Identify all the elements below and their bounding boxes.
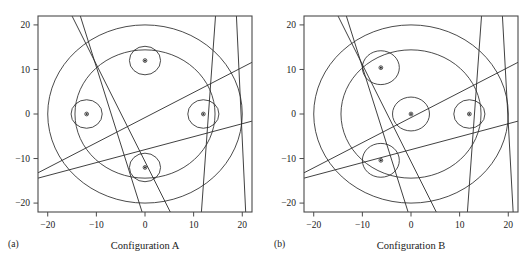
cut-line-1 [80, 16, 142, 212]
x-tick-label-1: −10 [355, 220, 370, 230]
x-tick-label-4: 20 [238, 220, 248, 230]
x-tick-label-2: 0 [409, 220, 414, 230]
cut-line-4 [38, 62, 252, 172]
y-tick-label-4: 20 [287, 20, 297, 30]
plot-frame [38, 16, 252, 212]
y-tick-label-4: 20 [21, 20, 31, 30]
x-tick-label-0: −20 [40, 220, 55, 230]
cut-line-1 [346, 16, 408, 212]
plot-area [38, 16, 252, 212]
y-tick-label-3: 10 [21, 65, 31, 75]
plot-area [304, 16, 518, 212]
y-tick-label-0: −20 [281, 198, 296, 208]
center-point-0 [380, 67, 382, 69]
plot-svg-b: −20−1001020−20−1001020 (b)Configuration … [266, 0, 532, 265]
cut-line-5 [304, 121, 518, 178]
center-point-2 [469, 113, 471, 115]
y-tick-label-3: 10 [287, 65, 297, 75]
y-tick-label-1: −10 [281, 154, 296, 164]
plot-svg-a: −20−1001020−20−1001020 (a)Configuration … [0, 0, 266, 265]
center-point-1 [410, 113, 412, 115]
center-point-3 [380, 159, 382, 161]
x-tick-label-3: 10 [455, 220, 465, 230]
x-tick-label-2: 0 [143, 220, 148, 230]
cut-line-3 [236, 16, 245, 212]
y-tick-label-2: 0 [291, 109, 296, 119]
center-point-1 [144, 60, 146, 62]
panel-configuration-b: −20−1001020−20−1001020 (b)Configuration … [266, 0, 532, 265]
y-tick-label-2: 0 [25, 109, 30, 119]
center-point-2 [203, 113, 205, 115]
outer-circle-1 [75, 50, 215, 178]
x-tick-label-0: −20 [306, 220, 321, 230]
x-tick-label-1: −10 [89, 220, 104, 230]
y-tick-label-1: −10 [15, 154, 30, 164]
figure-container: −20−1001020−20−1001020 (a)Configuration … [0, 0, 532, 265]
cut-line-3 [502, 16, 513, 212]
cut-line-0 [338, 16, 436, 212]
panel-label-b: (b) [274, 239, 285, 250]
y-tick-label-0: −20 [15, 198, 30, 208]
panel-configuration-a: −20−1001020−20−1001020 (a)Configuration … [0, 0, 266, 265]
panel-caption-b: Configuration B [377, 240, 446, 251]
panel-caption-a: Configuration A [111, 240, 180, 251]
x-tick-label-4: 20 [504, 220, 514, 230]
x-tick-label-3: 10 [189, 220, 199, 230]
panel-label-a: (a) [8, 239, 19, 250]
center-point-3 [144, 167, 146, 169]
center-point-0 [86, 113, 88, 115]
cut-line-4 [304, 62, 518, 172]
